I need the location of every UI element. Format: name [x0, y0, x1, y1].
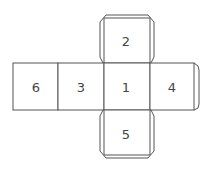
face-label-center: 1 [122, 80, 130, 95]
face-label-bottom: 5 [122, 127, 130, 142]
face-label-top: 2 [122, 34, 130, 49]
face-label-right: 4 [168, 80, 176, 95]
cube-net-diagram: 2 6 3 1 4 5 [0, 0, 208, 171]
glue-tab-right [194, 63, 199, 110]
face-label-left: 3 [77, 80, 85, 95]
face-label-left-far: 6 [32, 80, 40, 95]
